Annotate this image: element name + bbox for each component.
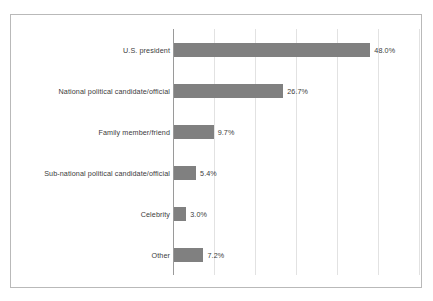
bar-row: Sub-national political candidate/officia…	[11, 152, 421, 193]
bar	[174, 43, 370, 57]
bar	[174, 84, 283, 98]
value-label: 9.7%	[218, 127, 235, 136]
value-label: 26.7%	[287, 86, 308, 95]
category-label: Other	[152, 250, 170, 259]
plot-area: U.S. president 48.0% National political …	[11, 15, 421, 287]
bar-row: National political candidate/official 26…	[11, 70, 421, 111]
category-label: U.S. president	[123, 45, 170, 54]
value-label: 3.0%	[190, 209, 207, 218]
value-label: 7.2%	[207, 250, 224, 259]
bar	[174, 248, 203, 262]
value-label: 5.4%	[200, 168, 217, 177]
bar-row: Celebrity 3.0%	[11, 193, 421, 234]
bar	[174, 125, 214, 139]
bar-row: Other 7.2%	[11, 234, 421, 275]
bar	[174, 207, 186, 221]
category-label: Family member/friend	[99, 127, 171, 136]
bar-row: U.S. president 48.0%	[11, 29, 421, 70]
bar	[174, 166, 196, 180]
value-label: 48.0%	[374, 45, 395, 54]
bar-row: Family member/friend 9.7%	[11, 111, 421, 152]
category-label: Sub-national political candidate/officia…	[44, 168, 170, 177]
category-label: Celebrity	[141, 209, 170, 218]
chart-frame: U.S. president 48.0% National political …	[10, 14, 422, 288]
category-label: National political candidate/official	[59, 86, 170, 95]
